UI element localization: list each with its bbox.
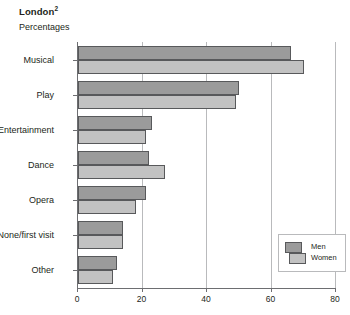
chart-legend: Men Women <box>278 234 346 272</box>
bar-women-entertainment <box>78 130 146 144</box>
bar-women-dance <box>78 165 165 179</box>
category-label-play: Play <box>36 90 54 100</box>
y-tick-none-first-visit <box>73 235 77 236</box>
x-tick-40 <box>206 288 207 292</box>
category-label-musical: Musical <box>23 55 54 65</box>
bar-men-opera <box>78 186 146 200</box>
bar-women-play <box>78 95 236 109</box>
y-tick-musical <box>73 60 77 61</box>
legend-label-men: Men <box>311 242 326 251</box>
legend-label-women: Women <box>311 253 337 262</box>
category-label-entertainment: Entertainment <box>0 125 54 135</box>
category-label-none-first-visit: None/first visit <box>0 230 54 240</box>
x-tick-20 <box>142 288 143 292</box>
x-tick-60 <box>271 288 272 292</box>
y-tick-dance <box>73 165 77 166</box>
legend-swatch-men <box>285 242 302 253</box>
category-label-dance: Dance <box>28 160 54 170</box>
x-tick-label-60: 60 <box>266 294 275 304</box>
chart-title-text: London <box>19 6 54 17</box>
gridline-60 <box>271 42 272 288</box>
y-tick-play <box>73 95 77 96</box>
bar-men-other <box>78 256 117 270</box>
bar-women-none-first-visit <box>78 235 123 249</box>
y-tick-entertainment <box>73 130 77 131</box>
chart-title: London2 <box>19 6 58 17</box>
x-tick-label-0: 0 <box>75 294 80 304</box>
legend-swatch-women <box>289 253 306 264</box>
bar-men-entertainment <box>78 116 152 130</box>
chart-title-footnote-marker: 2 <box>54 5 58 12</box>
bar-women-musical <box>78 60 304 74</box>
y-tick-other <box>73 270 77 271</box>
bar-women-opera <box>78 200 136 214</box>
category-label-opera: Opera <box>29 195 54 205</box>
chart-subtitle: Percentages <box>19 22 70 32</box>
chart-figure: London2 Percentages 020406080 MusicalPla… <box>0 0 350 315</box>
x-tick-0 <box>77 288 78 292</box>
y-tick-opera <box>73 200 77 201</box>
category-label-other: Other <box>31 265 54 275</box>
bar-men-none-first-visit <box>78 221 123 235</box>
bar-men-musical <box>78 46 291 60</box>
bar-men-play <box>78 81 239 95</box>
bar-women-other <box>78 270 113 284</box>
x-tick-80 <box>335 288 336 292</box>
bar-men-dance <box>78 151 149 165</box>
gridline-40 <box>206 42 207 288</box>
x-tick-label-80: 80 <box>330 294 339 304</box>
x-tick-label-40: 40 <box>201 294 210 304</box>
x-tick-label-20: 20 <box>137 294 146 304</box>
